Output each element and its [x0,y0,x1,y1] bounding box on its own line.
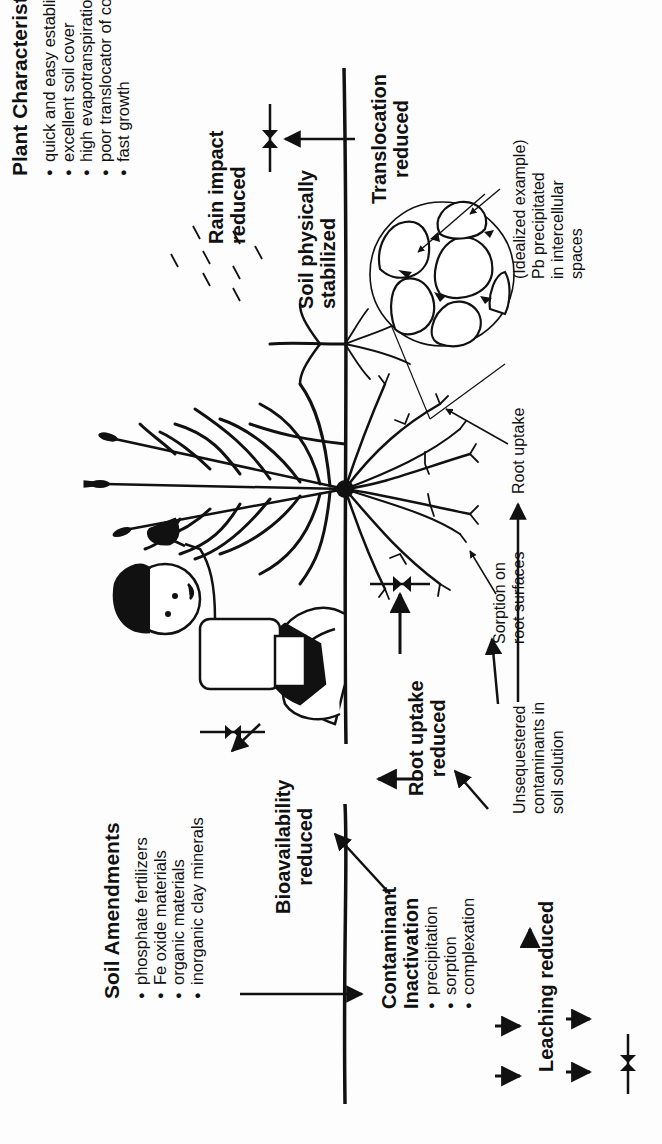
contaminant-inactivation-title-1: Contaminant [378,887,400,1009]
plant-characteristic-item: excellent soil cover [59,0,78,176]
leaching-arrows [495,929,655,1104]
bioavailability-block-arrow [200,724,265,751]
root-uptake-label: Root uptake [509,408,528,494]
soil-stabilized-line2: stabilized [317,170,339,309]
amendment-item: inorganic clay minerals [188,817,207,999]
soil-amendments-title: Soil Amendments [100,817,124,999]
root-uptake-reduced-line1: Root uptake [405,680,427,796]
soil-amendments-list: phosphate fertilizers Fe oxide materials… [132,817,206,999]
inactivation-item: precipitation [422,887,441,1009]
unsequestered-line1: Unsequestered [510,702,529,814]
ground-line [344,68,346,1104]
plant-characteristics-title: Plant Characteristics [8,0,32,176]
sorption-label: Sorption on root surfaces [490,552,528,644]
inactivation-item: sorption [441,887,460,1009]
figure-frame: Soil Amendments phosphate fertilizers Fe… [0,0,662,1144]
bioavailability-line1: Bioavailability [272,780,294,915]
plant-characteristic-item: poor translocator of contaminants [96,0,115,176]
plant-illustration [85,304,478,599]
bioavailability-line2: reduced [294,780,316,915]
cell-magnifier [370,189,514,419]
cell-example-line1: (Idealized example) [510,139,529,279]
root-uptake-pointer [446,409,508,444]
translocation-line2: reduced [390,74,412,204]
to-sorption-arrow [492,639,498,704]
cell-example-line2: Pb precipitated [529,139,548,279]
soil-stabilized-label: Soil physically stabilized [295,170,339,309]
amendment-item: organic materials [169,817,188,999]
unsequestered-line2: contaminants in [529,702,548,814]
leaching-block [566,1019,636,1094]
contaminant-inactivation-title-2: Inactivation [400,887,422,1009]
translocation-label: Translocation reduced [368,74,412,204]
cell-example-caption: (Idealized example) Pb precipitated in i… [510,139,586,279]
root-uptake-reduced-line2: reduced [427,680,449,796]
contaminant-inactivation-block: Contaminant Inactivation precipitation s… [378,887,478,1009]
plant-characteristics-list: quick and easy establishment excellent s… [40,0,133,176]
inactivation-list: precipitation sorption complexation [422,887,478,1009]
to-unsequestered-arrow [455,771,488,809]
unsequestered-line3: soil solution [548,702,567,814]
inactivation-item: complexation [459,887,478,1009]
leaching-reduced-label: Leaching reduced [535,901,557,1072]
cell-example-line4: spaces [567,139,586,279]
root-uptake-block [370,576,430,654]
sorption-line1: Sorption on [490,552,509,644]
sorption-line2: root surfaces [509,552,528,644]
translocation-line1: Translocation [368,74,390,204]
bioavailability-label: Bioavailability reduced [272,780,316,915]
plant-characteristic-item: high evapotranspiration rate [77,0,96,176]
amendment-item: Fe oxide materials [151,817,170,999]
rain-impact-label: Rain impact reduced [205,131,249,244]
translocation-block [262,104,278,172]
soil-amendments-block: Soil Amendments phosphate fertilizers Fe… [100,817,206,999]
plant-characteristic-item: quick and easy establishment [40,0,59,176]
amendment-item: phosphate fertilizers [132,817,151,999]
plant-characteristic-item: fast growth [114,0,133,176]
diagram-canvas: Soil Amendments phosphate fertilizers Fe… [0,0,662,1144]
unsequestered-label: Unsequestered contaminants in soil solut… [510,702,567,814]
root-uptake-reduced-label: Root uptake reduced [405,680,449,796]
rain-line2: reduced [227,131,249,244]
plant-characteristics-block: Plant Characteristics quick and easy est… [8,0,133,176]
soil-stabilized-line1: Soil physically [295,170,317,309]
rain-line1: Rain impact [205,131,227,244]
cell-example-line3: in intercellular [548,139,567,279]
bioavailability-arrow [335,834,390,894]
